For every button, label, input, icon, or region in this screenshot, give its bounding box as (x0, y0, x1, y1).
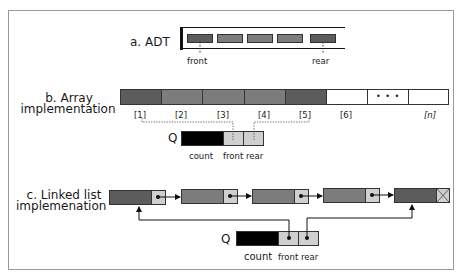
connector-lines (0, 0, 466, 280)
